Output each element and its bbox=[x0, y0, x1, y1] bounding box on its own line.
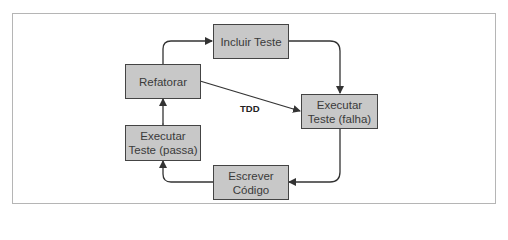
node-executar-teste-passa: Executar Teste (passa) bbox=[125, 125, 201, 161]
node-label-line2: Código bbox=[228, 183, 273, 197]
node-label-line1: Executar bbox=[128, 129, 197, 143]
node-label-line1: Executar bbox=[308, 98, 371, 112]
node-label-line2: Teste (falha) bbox=[308, 112, 371, 126]
edge-falha-escrever bbox=[289, 128, 340, 182]
node-refatorar: Refatorar bbox=[125, 64, 201, 99]
edge-escrever-passa bbox=[163, 161, 213, 182]
edge-incluir-falha bbox=[288, 41, 340, 93]
tdd-edge-label: TDD bbox=[240, 103, 260, 114]
node-executar-teste-falha: Executar Teste (falha) bbox=[301, 94, 378, 129]
node-label: Incluir Teste bbox=[220, 35, 281, 49]
node-incluir-teste: Incluir Teste bbox=[213, 24, 289, 59]
node-escrever-codigo: Escrever Código bbox=[213, 165, 289, 200]
node-label: Refatorar bbox=[139, 75, 187, 89]
node-label-line2: Teste (passa) bbox=[128, 143, 197, 157]
node-label-line1: Escrever bbox=[228, 169, 273, 183]
edge-refatorar-incluir bbox=[163, 41, 212, 64]
